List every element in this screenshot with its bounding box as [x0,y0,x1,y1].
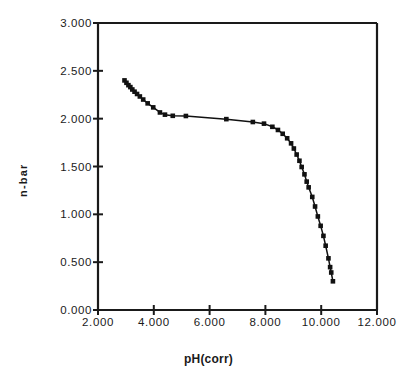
x-axis-title: pH(corr) [0,352,417,366]
data-point-marker [151,105,156,110]
data-point-marker [302,172,307,177]
data-point-marker [145,101,150,106]
data-point-marker [251,120,256,125]
data-point-marker [262,121,267,126]
data-series-markers [122,78,335,284]
data-point-marker [270,125,275,130]
data-point-marker [184,114,189,119]
series-polyline [125,80,333,281]
axis-lines [98,23,377,310]
x-tick-label: 12.000 [358,316,397,328]
data-point-marker [289,141,294,146]
data-point-marker [306,185,311,190]
x-tick-label: 6.000 [194,316,226,328]
data-point-marker [285,136,290,141]
data-point-marker [310,195,315,200]
x-tick-label: 8.000 [250,316,282,328]
data-point-marker [158,110,163,115]
data-point-marker [328,265,333,270]
data-point-marker [170,114,175,119]
data-point-marker [313,204,318,209]
y-tick-label: 2.500 [46,65,92,77]
y-tick-label: 1.500 [46,161,92,173]
x-tick-label: 10.000 [302,316,341,328]
data-point-marker [323,243,328,248]
data-point-marker [321,234,326,239]
data-point-marker [316,214,321,219]
data-point-marker [299,165,304,170]
y-tick-label: 3.000 [46,17,92,29]
y-tick-label: 2.000 [46,113,92,125]
data-point-marker [163,112,168,117]
y-tick-label: 0.500 [46,256,92,268]
data-series-line [125,80,333,281]
data-point-marker [329,270,334,275]
data-point-marker [292,146,297,151]
data-point-marker [276,128,281,133]
y-tick-label: 1.000 [46,208,92,220]
data-point-marker [280,131,285,136]
x-tick-label: 2.000 [82,316,114,328]
data-point-marker [141,97,146,102]
data-point-marker [294,152,299,157]
chart-container: n-bar 0.0000.5001.0001.5002.0002.5003.00… [0,0,417,381]
data-point-marker [297,158,302,163]
data-point-marker [304,179,309,184]
data-point-marker [318,224,323,229]
data-point-marker [331,279,336,284]
x-tick-label: 4.000 [138,316,170,328]
data-point-marker [224,117,229,122]
y-axis-title: n-bar [8,140,38,220]
data-point-marker [326,256,331,261]
y-tick-label: 0.000 [46,304,92,316]
